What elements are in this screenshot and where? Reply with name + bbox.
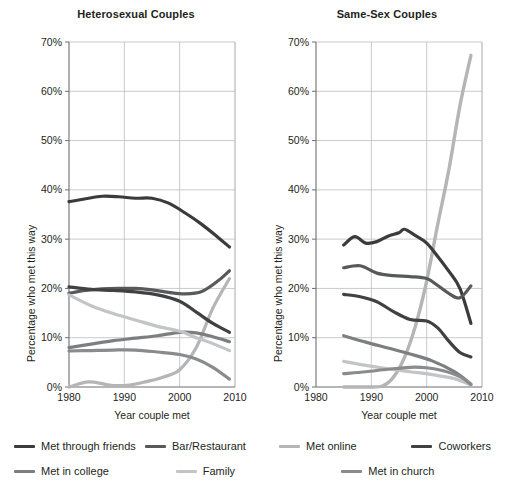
y-axis-label-right: Percentage who met this way bbox=[272, 225, 284, 362]
series-line bbox=[344, 266, 471, 298]
figure-root: Heterosexual Couples 0%10%20%30%40%50%60… bbox=[0, 0, 505, 499]
legend-label-bar_restaurant: Bar/Restaurant bbox=[172, 441, 246, 452]
legend-item-family[interactable]: Family bbox=[176, 466, 342, 477]
y-tick-labels: 0%10%20%30%40%50%60%70% bbox=[288, 36, 316, 393]
legend-swatch-met_in_church bbox=[341, 470, 362, 473]
svg-text:60%: 60% bbox=[41, 85, 62, 97]
svg-text:2010: 2010 bbox=[470, 391, 494, 403]
legend-item-coworkers[interactable]: Coworkers bbox=[411, 441, 505, 452]
series-line bbox=[69, 350, 229, 379]
legend-swatch-family bbox=[176, 470, 197, 473]
legend-item-bar_restaurant[interactable]: Bar/Restaurant bbox=[145, 441, 279, 452]
svg-text:2010: 2010 bbox=[223, 391, 247, 403]
legend-label-met_in_college: Met in college bbox=[41, 466, 109, 477]
svg-text:50%: 50% bbox=[41, 134, 62, 146]
series-group bbox=[344, 55, 471, 387]
legend-label-met_online: Met online bbox=[306, 441, 357, 452]
svg-text:1980: 1980 bbox=[57, 391, 81, 403]
svg-text:50%: 50% bbox=[288, 134, 309, 146]
svg-text:2000: 2000 bbox=[415, 391, 439, 403]
chart-legend: Met through friendsBar/RestaurantMet onl… bbox=[0, 425, 505, 499]
legend-swatch-bar_restaurant bbox=[145, 445, 166, 448]
series-group bbox=[69, 196, 229, 387]
x-tick-labels: 1980199020002010 bbox=[304, 391, 494, 403]
x-axis-label-left: Year couple met bbox=[69, 409, 235, 421]
panel-heterosexual-couples: Heterosexual Couples 0%10%20%30%40%50%60… bbox=[0, 0, 250, 425]
legend-item-met_online[interactable]: Met online bbox=[279, 441, 411, 452]
x-axis-label-right: Year couple met bbox=[316, 409, 482, 421]
svg-text:10%: 10% bbox=[288, 331, 309, 343]
svg-text:70%: 70% bbox=[288, 36, 309, 48]
y-tick-labels: 0%10%20%30%40%50%60%70% bbox=[41, 36, 69, 393]
svg-text:40%: 40% bbox=[288, 183, 309, 195]
plot-area-right: 0%10%20%30%40%50%60%70%1980199020002010 bbox=[255, 0, 505, 425]
svg-text:20%: 20% bbox=[288, 282, 309, 294]
legend-swatch-met_online bbox=[279, 445, 300, 448]
svg-text:20%: 20% bbox=[41, 282, 62, 294]
svg-text:1990: 1990 bbox=[113, 391, 137, 403]
svg-text:30%: 30% bbox=[288, 233, 309, 245]
svg-text:30%: 30% bbox=[41, 233, 62, 245]
svg-text:10%: 10% bbox=[41, 331, 62, 343]
legend-item-met_in_college[interactable]: Met in college bbox=[14, 466, 176, 477]
axis-lines bbox=[316, 42, 482, 387]
legend-swatch-met_through_friends bbox=[14, 445, 35, 448]
legend-row: Met through friendsBar/RestaurantMet onl… bbox=[14, 434, 505, 459]
chart-panels: Heterosexual Couples 0%10%20%30%40%50%60… bbox=[0, 0, 505, 425]
y-axis-label-left: Percentage who met this way bbox=[25, 225, 37, 362]
legend-item-met_through_friends[interactable]: Met through friends bbox=[14, 441, 145, 452]
legend-row: Met in collegeFamilyMet in church bbox=[14, 459, 505, 484]
svg-text:60%: 60% bbox=[288, 85, 309, 97]
svg-text:2000: 2000 bbox=[168, 391, 192, 403]
svg-text:1990: 1990 bbox=[360, 391, 384, 403]
legend-label-met_through_friends: Met through friends bbox=[41, 441, 136, 452]
legend-label-coworkers: Coworkers bbox=[438, 441, 491, 452]
svg-text:70%: 70% bbox=[41, 36, 62, 48]
legend-swatch-met_in_college bbox=[14, 470, 35, 473]
legend-label-family: Family bbox=[203, 466, 235, 477]
legend-label-met_in_church: Met in church bbox=[368, 466, 434, 477]
svg-text:40%: 40% bbox=[41, 183, 62, 195]
legend-item-met_in_church[interactable]: Met in church bbox=[341, 466, 505, 477]
x-tick-labels: 1980199020002010 bbox=[57, 391, 247, 403]
plot-area-left: 0%10%20%30%40%50%60%70%1980199020002010 bbox=[0, 0, 250, 425]
panel-same-sex-couples: Same-Sex Couples 0%10%20%30%40%50%60%70%… bbox=[255, 0, 505, 425]
legend-swatch-coworkers bbox=[411, 445, 432, 448]
gridlines bbox=[316, 42, 482, 387]
series-line bbox=[344, 55, 471, 387]
svg-text:1980: 1980 bbox=[304, 391, 328, 403]
